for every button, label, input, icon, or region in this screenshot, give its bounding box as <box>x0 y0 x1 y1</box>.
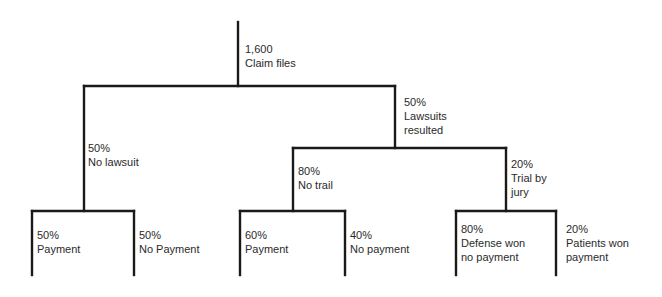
node-percent: 60% <box>245 228 288 242</box>
leaf-no-payment-no-trial: 40% No payment <box>350 228 409 256</box>
leaf-defense-won: 80% Defense won no payment <box>461 222 525 264</box>
node-percent: 50% <box>404 95 447 109</box>
root-label: 1,600 Claim files <box>245 42 296 70</box>
claims-decision-tree: 1,600 Claim files 50% No lawsuit 50% Law… <box>0 0 662 297</box>
node-text: No trail <box>298 178 333 192</box>
root-count: 1,600 <box>245 42 296 56</box>
node-text: no payment <box>461 250 525 264</box>
node-percent: 50% <box>37 228 80 242</box>
node-text: No Payment <box>139 242 200 256</box>
node-text: Payment <box>245 242 288 256</box>
node-percent: 80% <box>298 164 333 178</box>
jury-trial-label: 20% Trial by jury <box>511 157 547 199</box>
node-percent: 80% <box>461 222 525 236</box>
node-text: Lawsuits <box>404 109 447 123</box>
root-text: Claim files <box>245 56 296 70</box>
leaf-patients-won: 20% Patients won payment <box>566 222 629 264</box>
node-text: No payment <box>350 242 409 256</box>
no-lawsuit-label: 50% No lawsuit <box>88 141 139 169</box>
node-percent: 20% <box>511 157 547 171</box>
node-text: resulted <box>404 123 447 137</box>
node-percent: 50% <box>88 141 139 155</box>
node-percent: 20% <box>566 222 629 236</box>
node-text: Payment <box>37 242 80 256</box>
node-text: No lawsuit <box>88 155 139 169</box>
node-text: Trial by <box>511 171 547 185</box>
leaf-payment-no-lawsuit: 50% Payment <box>37 228 80 256</box>
no-trial-label: 80% No trail <box>298 164 333 192</box>
node-percent: 40% <box>350 228 409 242</box>
node-text: payment <box>566 250 629 264</box>
node-text: Patients won <box>566 236 629 250</box>
node-percent: 50% <box>139 228 200 242</box>
node-text: Defense won <box>461 236 525 250</box>
lawsuits-label: 50% Lawsuits resulted <box>404 95 447 137</box>
leaf-payment-no-trial: 60% Payment <box>245 228 288 256</box>
node-text: jury <box>511 185 547 199</box>
leaf-no-payment-no-lawsuit: 50% No Payment <box>139 228 200 256</box>
